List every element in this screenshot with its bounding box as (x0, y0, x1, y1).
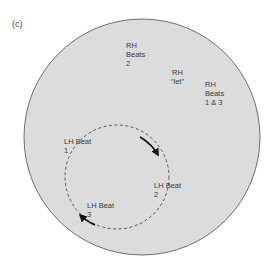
label-lh-beat-2: LH Beat 2 (154, 181, 181, 199)
label-lh-beat-3: LH Beat 3 (87, 201, 114, 219)
label-rh-let: RH “let” (171, 68, 184, 86)
label-lh-beat-1: LH Beat 1 (64, 137, 91, 155)
label-rh-beats-2: RH Beats 2 (126, 41, 145, 68)
label-rh-beats-1-3: RH Beats 1 & 3 (205, 80, 224, 107)
